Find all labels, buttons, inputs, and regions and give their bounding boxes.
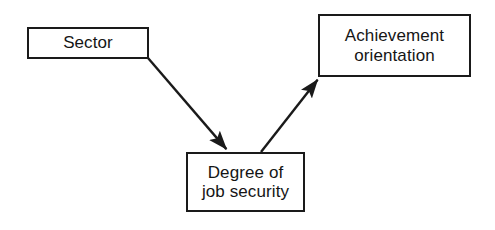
node-degree-of-job-security-label: Degree of job security <box>202 163 289 202</box>
node-sector-label: Sector <box>63 33 113 52</box>
node-degree-of-job-security: Degree of job security <box>186 152 305 212</box>
node-achievement-orientation-label: Achievement orientation <box>345 26 444 65</box>
edge-sector-to-security <box>148 58 226 149</box>
node-sector: Sector <box>27 27 149 59</box>
edge-security-to-achievement <box>261 80 318 152</box>
diagram-canvas: Sector Achievement orientation Degree of… <box>0 0 495 230</box>
node-achievement-orientation: Achievement orientation <box>318 14 471 77</box>
